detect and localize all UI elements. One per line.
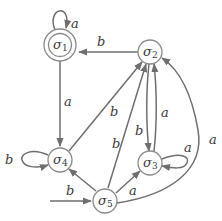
state-s4-sub: 4 xyxy=(62,158,68,168)
edge-label-s4-s2: b xyxy=(110,104,118,119)
edge-label-s2-s1: b xyxy=(97,34,105,49)
edge-s4-s4 xyxy=(22,152,48,167)
edge-s2-s3 xyxy=(147,64,149,151)
state-s5: σ5 xyxy=(93,189,117,213)
edge-label-s5-s2-curve: a xyxy=(209,132,217,147)
edge-label-s3-s3: a xyxy=(184,140,192,155)
edge-label-s5-s2-b2: b xyxy=(135,123,143,138)
edge-s4-s2 xyxy=(69,62,142,151)
edge-label-s5-s2: b xyxy=(112,136,120,151)
state-s1-sub: 1 xyxy=(62,43,68,53)
initial-label: b xyxy=(66,183,74,198)
state-s2-sub: 2 xyxy=(152,50,158,60)
state-s5-sub: 5 xyxy=(107,199,113,209)
state-s2: σ2 xyxy=(138,40,162,64)
state-s4: σ4 xyxy=(48,148,72,172)
edge-s1-s1 xyxy=(53,11,67,30)
edge-label-s1-s1: a xyxy=(71,16,79,31)
edge-label-s5-s3-a: a xyxy=(129,183,137,198)
edge-label-s4-s4: b xyxy=(5,152,13,167)
edge-label-s1-s4: a xyxy=(64,94,72,109)
edge-s3-s2 xyxy=(154,64,156,151)
edge-s3-s3 xyxy=(162,155,188,168)
state-s1: σ1 xyxy=(44,29,76,61)
edge-label-s3-s2: a xyxy=(161,105,169,120)
automaton-diagram: a b a b b b b a a a a b xyxy=(0,0,222,221)
state-s3-sub: 3 xyxy=(152,161,158,171)
state-s3: σ3 xyxy=(138,151,162,175)
